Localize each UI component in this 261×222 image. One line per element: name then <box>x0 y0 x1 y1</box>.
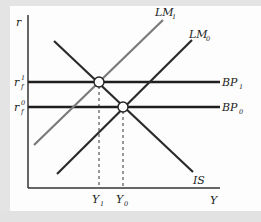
y0-tick-label: Y 0 <box>116 193 128 208</box>
is-lm-bp-diagram: r Y r 1 f r 0 f Y 1 Y 0 LM 1 LM 0 BP 1 B… <box>0 0 261 222</box>
svg-text:f: f <box>20 83 25 91</box>
y1-tick-label: Y 1 <box>92 193 104 208</box>
bp1-label: BP 1 <box>221 76 243 91</box>
rf1-tick-label: r 1 f <box>14 74 25 91</box>
svg-text:0: 0 <box>21 99 25 107</box>
x-axis-label: Y <box>210 194 219 207</box>
bp0-label: BP 0 <box>221 101 243 116</box>
is-label: IS <box>192 174 205 187</box>
equilibrium-1-marker <box>94 77 104 87</box>
svg-text:1: 1 <box>239 83 243 91</box>
svg-text:f: f <box>20 108 25 116</box>
svg-text:BP: BP <box>221 76 238 89</box>
svg-text:BP: BP <box>221 101 238 114</box>
svg-text:0: 0 <box>124 200 128 208</box>
y-axis-label: r <box>16 16 22 29</box>
svg-text:0: 0 <box>239 108 243 116</box>
svg-text:1: 1 <box>21 74 25 82</box>
rf0-tick-label: r 0 f <box>14 99 25 116</box>
svg-text:1: 1 <box>172 13 176 21</box>
equilibrium-0-marker <box>118 102 128 112</box>
lm1-label: LM 1 <box>154 6 176 21</box>
svg-text:r: r <box>14 76 20 89</box>
svg-text:0: 0 <box>206 35 210 43</box>
svg-text:1: 1 <box>100 200 104 208</box>
lm0-label: LM 0 <box>188 28 210 43</box>
svg-text:r: r <box>14 101 20 114</box>
